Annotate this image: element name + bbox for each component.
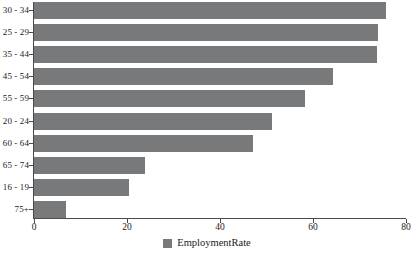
y-axis-tick-30-34: 30 - 34 [0, 2, 33, 19]
bar-row [34, 157, 406, 174]
bar-65-74[interactable] [34, 157, 145, 174]
y-tick-mark [29, 98, 33, 99]
y-tick-mark [29, 209, 33, 210]
y-axis-tick-20-24: 20 - 24 [0, 113, 33, 130]
y-axis-tick-35-44: 35 - 44 [0, 46, 33, 63]
plot-area [34, 2, 406, 218]
bar-row [34, 24, 406, 41]
y-axis-tick-60-64: 60 - 64 [0, 135, 33, 152]
legend-swatch-icon [163, 239, 172, 248]
x-axis-labels: 0 20 40 60 80 [0, 219, 414, 235]
bar-45-54[interactable] [34, 68, 333, 85]
y-tick-mark [29, 32, 33, 33]
bar-16-19[interactable] [34, 179, 129, 196]
employment-rate-bar-chart: 30 - 34 25 - 29 35 - 44 45 - 54 55 - 59 … [0, 0, 414, 257]
y-axis-tick-45-54: 45 - 54 [0, 68, 33, 85]
y-axis-labels: 30 - 34 25 - 29 35 - 44 45 - 54 55 - 59 … [0, 2, 33, 218]
bar-row [34, 68, 406, 85]
x-axis-label-text: 0 [32, 223, 37, 233]
y-tick-mark [29, 54, 33, 55]
bar-row [34, 46, 406, 63]
legend-label-employment-rate[interactable]: EmploymentRate [177, 238, 251, 249]
bar-25-29[interactable] [34, 24, 378, 41]
x-axis-label-text: 80 [401, 223, 411, 233]
y-axis-tick-55-59: 55 - 59 [0, 90, 33, 107]
bar-row [34, 90, 406, 107]
y-tick-mark [29, 10, 33, 11]
y-axis-line [33, 2, 34, 219]
bar-row [34, 113, 406, 130]
bar-75-plus[interactable] [34, 201, 66, 218]
y-tick-mark [29, 76, 33, 77]
bar-row [34, 2, 406, 19]
y-tick-mark [29, 187, 33, 188]
chart-legend: EmploymentRate [0, 238, 414, 249]
bar-20-24[interactable] [34, 113, 272, 130]
y-axis-tick-75-plus: 75+ [0, 201, 33, 218]
x-axis-label-text: 20 [122, 223, 132, 233]
bar-30-34[interactable] [34, 2, 386, 19]
bar-35-44[interactable] [34, 46, 377, 63]
y-tick-mark [29, 165, 33, 166]
bar-55-59[interactable] [34, 90, 305, 107]
bar-row [34, 179, 406, 196]
x-axis-label-text: 40 [215, 223, 225, 233]
y-axis-tick-16-19: 16 - 19 [0, 179, 33, 196]
bar-row [34, 135, 406, 152]
bar-60-64[interactable] [34, 135, 253, 152]
y-axis-tick-65-74: 65 - 74 [0, 157, 33, 174]
y-axis-tick-25-29: 25 - 29 [0, 24, 33, 41]
y-tick-mark [29, 143, 33, 144]
x-axis-label-text: 60 [308, 223, 318, 233]
y-tick-mark [29, 121, 33, 122]
bar-row [34, 201, 406, 218]
bar-series-employment-rate [34, 2, 406, 218]
